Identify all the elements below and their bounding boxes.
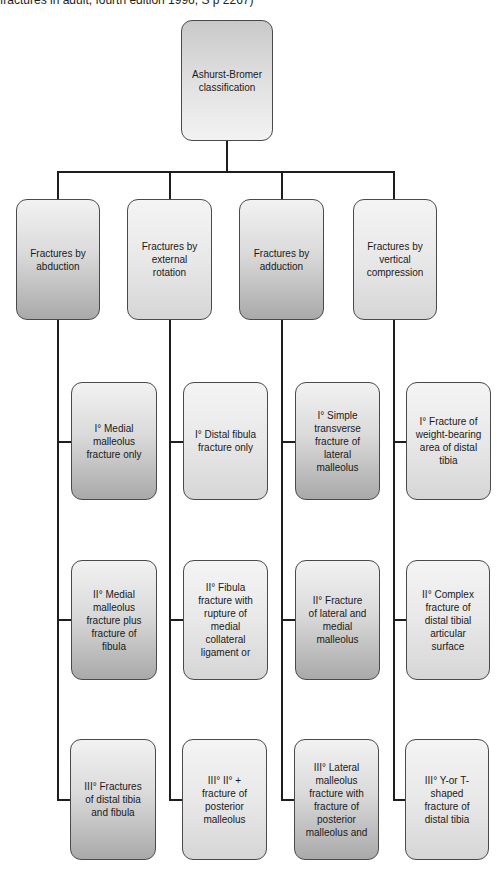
category-label: Fractures by vertical compression bbox=[358, 240, 432, 279]
grade-external-rotation-1: I° Distal fibula fracture only bbox=[183, 382, 268, 500]
grade-adduction-1: I° Simple transverse fracture of lateral… bbox=[295, 382, 380, 500]
branch-2-3 bbox=[169, 799, 183, 801]
branch-3-3 bbox=[281, 799, 295, 801]
branch-1-1 bbox=[57, 441, 71, 443]
branch-3-1 bbox=[281, 441, 295, 443]
branch-1-3 bbox=[57, 799, 71, 801]
category-drop-1 bbox=[57, 171, 59, 200]
grade-label: II° Fibula fracture with rupture of medi… bbox=[188, 581, 263, 659]
grade-label: III° Lateral malleolus fracture with fra… bbox=[299, 761, 374, 839]
root-node: Ashurst-Bromer classification bbox=[181, 20, 273, 141]
category-adduction: Fractures by adduction bbox=[239, 199, 324, 320]
grade-label: II° Complex fracture of distal tibial ar… bbox=[411, 588, 485, 653]
grade-external-rotation-3: III° II° + fracture of posterior malleol… bbox=[182, 739, 267, 860]
grade-external-rotation-2: II° Fibula fracture with rupture of medi… bbox=[183, 560, 268, 680]
grade-label: I° Simple transverse fracture of lateral… bbox=[300, 409, 375, 474]
grade-adduction-2: II° Fracture of lateral and medial malle… bbox=[295, 560, 380, 680]
grade-abduction-3: III° Fractures of distal tibia and fibul… bbox=[70, 739, 156, 860]
branch-4-2 bbox=[393, 619, 407, 621]
grade-abduction-2: II° Medial malleolus fracture plus fract… bbox=[71, 560, 157, 680]
category-label: Fractures by abduction bbox=[21, 247, 95, 273]
branch-2-2 bbox=[169, 619, 183, 621]
category-bus-line bbox=[57, 171, 395, 173]
spine-adduction bbox=[281, 319, 283, 800]
grade-label: I° Fracture of weight-bearing area of di… bbox=[411, 415, 486, 467]
category-drop-4 bbox=[393, 171, 395, 200]
category-drop-2 bbox=[169, 171, 171, 200]
grade-label: II° Medial malleolus fracture plus fract… bbox=[76, 588, 152, 653]
category-vertical-compression: Fractures by vertical compression bbox=[353, 199, 437, 320]
grade-label: III° Y-or T-shaped fracture of distal ti… bbox=[410, 774, 484, 826]
grade-vertical-compression-1: I° Fracture of weight-bearing area of di… bbox=[406, 382, 491, 500]
category-label: Fractures by external rotation bbox=[132, 240, 207, 279]
grade-abduction-1: I° Medial malleolus fracture only bbox=[71, 382, 157, 500]
root-label: Ashurst-Bromer classification bbox=[186, 68, 268, 94]
branch-2-1 bbox=[169, 441, 183, 443]
root-connector bbox=[226, 140, 228, 172]
grade-label: I° Medial malleolus fracture only bbox=[76, 422, 152, 461]
grade-vertical-compression-2: II° Complex fracture of distal tibial ar… bbox=[406, 560, 490, 680]
figure-caption: fractures in adult, fourth edition 1996,… bbox=[0, 0, 254, 7]
grade-label: III° Fractures of distal tibia and fibul… bbox=[75, 780, 151, 819]
spine-external-rotation bbox=[169, 319, 171, 800]
branch-3-2 bbox=[281, 619, 295, 621]
category-label: Fractures by adduction bbox=[244, 247, 319, 273]
branch-4-1 bbox=[393, 441, 407, 443]
branch-1-2 bbox=[57, 619, 71, 621]
spine-vertical-compression bbox=[393, 319, 395, 800]
category-external-rotation: Fractures by external rotation bbox=[127, 199, 212, 320]
grade-adduction-3: III° Lateral malleolus fracture with fra… bbox=[294, 739, 379, 860]
grade-label: II° Fracture of lateral and medial malle… bbox=[300, 594, 375, 646]
grade-label: I° Distal fibula fracture only bbox=[188, 428, 263, 454]
category-drop-3 bbox=[281, 171, 283, 200]
category-abduction: Fractures by abduction bbox=[16, 199, 100, 320]
spine-abduction bbox=[57, 319, 59, 800]
grade-label: III° II° + fracture of posterior malleol… bbox=[187, 774, 262, 826]
grade-vertical-compression-3: III° Y-or T-shaped fracture of distal ti… bbox=[405, 739, 489, 860]
